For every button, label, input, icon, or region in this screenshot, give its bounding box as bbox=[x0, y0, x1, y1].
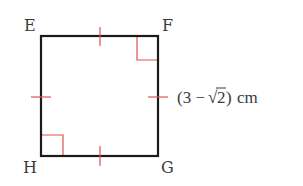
vertex-label-e: E bbox=[24, 16, 36, 35]
side-length-label: (3 − √ 2 ) cm bbox=[177, 88, 258, 107]
vertex-label-g: G bbox=[161, 158, 174, 177]
radicand: 2 bbox=[217, 88, 226, 107]
vertex-label-f: F bbox=[162, 16, 173, 35]
right-angle-marker-f bbox=[137, 36, 158, 60]
side-length-close: ) bbox=[226, 88, 232, 107]
side-length-open: (3 − bbox=[177, 88, 205, 107]
square-diagram: E F G H (3 − √ 2 ) cm bbox=[0, 0, 303, 186]
vertex-label-h: H bbox=[23, 158, 37, 177]
square-efgh bbox=[41, 36, 158, 156]
side-length-unit: cm bbox=[237, 88, 258, 107]
right-angle-marker-h bbox=[41, 135, 63, 156]
